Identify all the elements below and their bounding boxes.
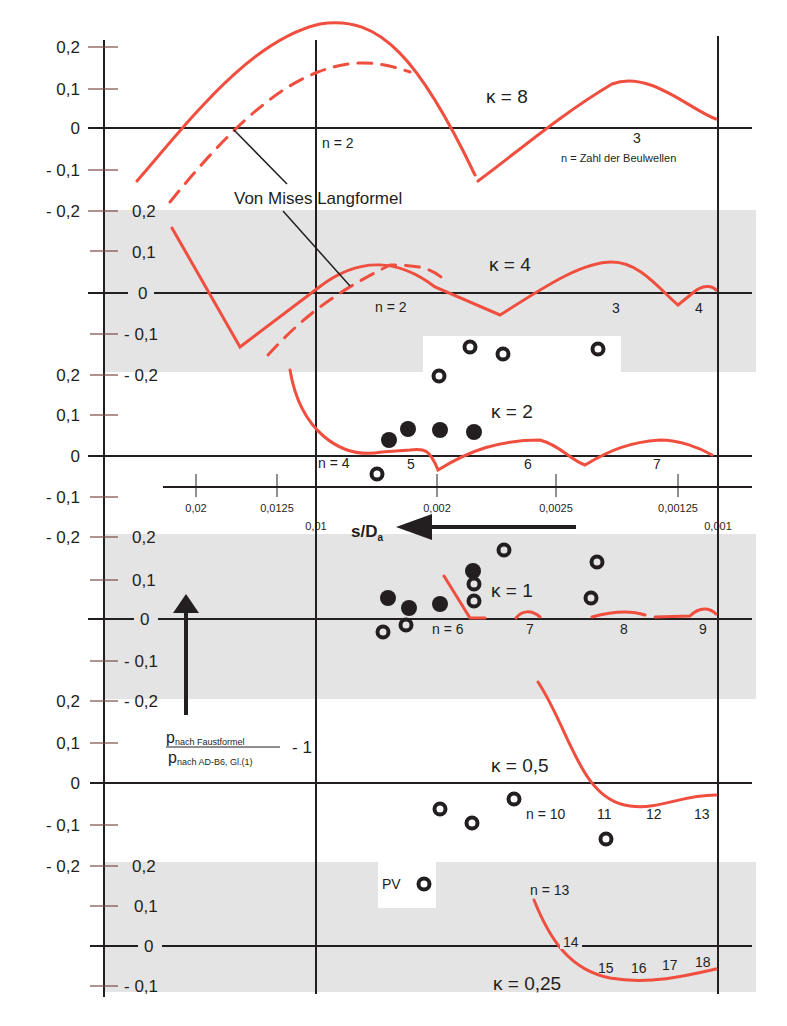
svg-text:n = 10: n = 10 bbox=[526, 806, 566, 822]
tick-label: 0,1 bbox=[56, 80, 80, 99]
tick-label: - 0,2 bbox=[124, 366, 158, 385]
tick-label: - 0,1 bbox=[46, 488, 80, 507]
x-tick-label: 0,02 bbox=[185, 502, 206, 514]
tick-label: 0 bbox=[144, 937, 153, 956]
tick-label: 0,2 bbox=[132, 857, 156, 876]
tick-label: - 0,2 bbox=[46, 528, 80, 547]
svg-text:7: 7 bbox=[653, 456, 661, 472]
svg-text:11: 11 bbox=[597, 806, 612, 822]
tick-label: - 0,1 bbox=[124, 977, 158, 996]
x-tick-label: 0,001 bbox=[704, 520, 732, 532]
tick-label: 0,1 bbox=[134, 897, 158, 916]
outer-tick-labels: 0,2 0,1 0 - 0,1 - 0,2 0,2 0,1 0 - 0,1 - … bbox=[46, 38, 80, 876]
x-tick-label: 0,00125 bbox=[658, 502, 698, 514]
y-axis-label: pnach Faustformel pnach AD-B6, Gl.(1) - … bbox=[166, 729, 312, 767]
curve-kappa-0.5 bbox=[538, 682, 716, 807]
svg-text:pnach Faustformel: pnach Faustformel bbox=[166, 729, 244, 747]
x-tick-label: 0,0125 bbox=[260, 502, 294, 514]
tick-label: 0 bbox=[140, 610, 149, 629]
svg-text:18: 18 bbox=[695, 954, 711, 970]
svg-text:n = 4: n = 4 bbox=[318, 455, 350, 471]
tick-label: 0 bbox=[138, 284, 147, 303]
tick-label: 0 bbox=[71, 119, 80, 138]
x-axis-label: s/Da bbox=[351, 522, 383, 543]
tick-label: - 0,1 bbox=[46, 161, 80, 180]
n-legend-label: n = Zahl der Beulwellen bbox=[561, 152, 676, 164]
svg-text:n = 2: n = 2 bbox=[375, 299, 407, 315]
svg-text:3: 3 bbox=[612, 300, 620, 316]
chart: 0,2 0,1 0 - 0,1 - 0,2 0,2 0,1 0 - 0,1 - … bbox=[0, 0, 787, 1026]
svg-text:pnach AD-B6, Gl.(1): pnach AD-B6, Gl.(1) bbox=[168, 749, 252, 767]
tick-label: - 0,2 bbox=[46, 202, 80, 221]
svg-text:16: 16 bbox=[631, 960, 647, 976]
svg-text:15: 15 bbox=[598, 960, 614, 976]
svg-text:8: 8 bbox=[620, 621, 628, 637]
kappa-label: κ = 1 bbox=[491, 580, 533, 601]
legend-box-white bbox=[423, 336, 621, 374]
svg-text:7: 7 bbox=[526, 621, 534, 637]
svg-text:12: 12 bbox=[646, 806, 662, 822]
tick-label: 0,1 bbox=[56, 734, 80, 753]
tick-label: 0,1 bbox=[132, 243, 156, 262]
kappa-label: κ = 2 bbox=[491, 401, 533, 422]
kappa-label: κ = 0,5 bbox=[491, 755, 549, 776]
svg-text:13: 13 bbox=[694, 806, 710, 822]
kappa-label: κ = 0,25 bbox=[493, 973, 561, 994]
svg-text:9: 9 bbox=[699, 621, 707, 637]
tick-label: - 0,2 bbox=[124, 692, 158, 711]
svg-text:- 1: - 1 bbox=[292, 738, 312, 757]
svg-text:17: 17 bbox=[662, 957, 678, 973]
tick-label: 0,2 bbox=[56, 692, 80, 711]
von-mises-label: Von Mises Langformel bbox=[234, 189, 402, 208]
tick-label: - 0,2 bbox=[46, 857, 80, 876]
svg-text:3: 3 bbox=[633, 130, 641, 146]
tick-label: 0,2 bbox=[56, 38, 80, 57]
vertical-gridlines bbox=[104, 36, 718, 997]
svg-text:6: 6 bbox=[524, 456, 532, 472]
x-axis-sda bbox=[163, 474, 752, 497]
svg-text:n = 2: n = 2 bbox=[322, 135, 354, 151]
tick-label: - 0,1 bbox=[124, 325, 158, 344]
pv-label: PV bbox=[382, 876, 401, 892]
curve-kappa-8-dashed bbox=[170, 63, 410, 202]
tick-label: 0 bbox=[71, 447, 80, 466]
tick-label: 0,1 bbox=[132, 571, 156, 590]
svg-text:4: 4 bbox=[695, 300, 703, 316]
x-tick-label: 0,002 bbox=[423, 502, 451, 514]
x-tick-label: 0,01 bbox=[305, 520, 326, 532]
tick-label: 0,1 bbox=[56, 406, 80, 425]
kappa-label: κ = 4 bbox=[489, 254, 531, 275]
kappa-label: κ = 8 bbox=[486, 86, 528, 107]
x-tick-label: 0,0025 bbox=[539, 502, 573, 514]
tick-label: 0,2 bbox=[56, 366, 80, 385]
svg-text:n = 13: n = 13 bbox=[530, 882, 570, 898]
svg-text:n = 6: n = 6 bbox=[432, 621, 464, 637]
tick-label: 0,2 bbox=[132, 528, 156, 547]
tick-label: - 0,1 bbox=[46, 816, 80, 835]
tick-label: 0 bbox=[71, 774, 80, 793]
tick-label: - 0,1 bbox=[124, 652, 158, 671]
svg-text:5: 5 bbox=[407, 456, 415, 472]
svg-text:14: 14 bbox=[563, 934, 579, 950]
tick-label: 0,2 bbox=[132, 202, 156, 221]
